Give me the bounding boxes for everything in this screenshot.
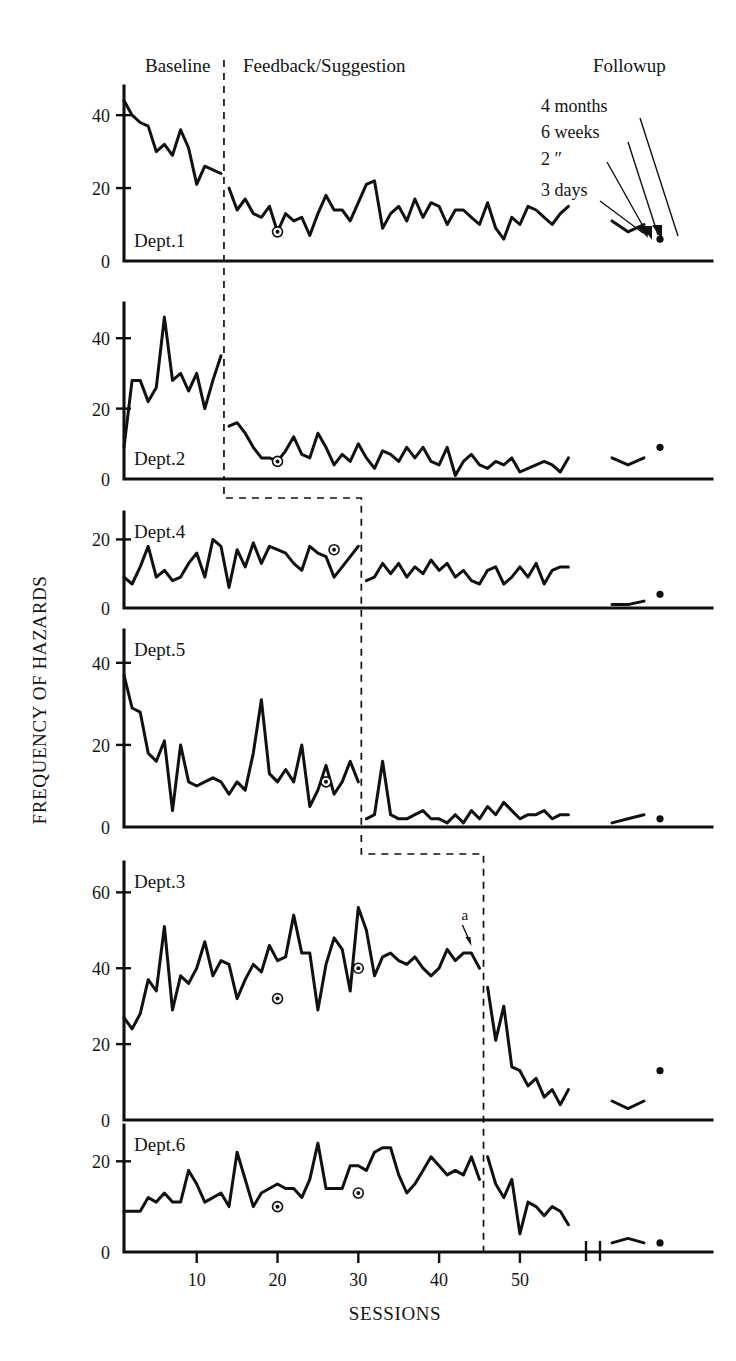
y-tick-label: 20	[92, 179, 110, 199]
panel-dept-6: 020Dept.6	[92, 1125, 712, 1263]
y-tick-label: 20	[92, 530, 110, 550]
leader-line-four-months	[640, 118, 678, 236]
highlight-point-dot	[276, 997, 280, 1001]
followup-final-point	[656, 815, 663, 822]
series-intervention	[488, 1157, 569, 1234]
highlight-point-dot	[332, 548, 336, 552]
series-baseline	[124, 539, 358, 587]
panel-dept-5: 02040Dept.5	[92, 630, 712, 838]
y-tick-label: 20	[92, 1035, 110, 1055]
dept-label: Dept.6	[134, 1134, 185, 1155]
point-annotation-label: a	[461, 907, 468, 923]
y-tick-label: 20	[92, 400, 110, 420]
leader-line-six-weeks	[628, 142, 658, 235]
series-baseline	[124, 317, 221, 447]
phase-change-lines	[224, 60, 484, 1252]
panel-dept-1: 02040Dept.1	[92, 86, 712, 272]
highlight-point-dot	[276, 459, 280, 463]
x-tick-label: 20	[269, 1270, 287, 1290]
dept-label: Dept.2	[134, 448, 185, 469]
followup-final-point	[656, 236, 663, 243]
series-followup	[612, 458, 644, 465]
series-followup	[612, 601, 644, 605]
phase-label-baseline: Baseline	[145, 55, 210, 76]
dept-label: Dept.5	[134, 639, 185, 660]
followup-annotation-six-weeks: 6 weeks	[541, 122, 599, 142]
series-followup	[612, 1238, 644, 1243]
followup-annotation-two-weeks: 2 ″	[541, 149, 562, 169]
y-tick-label: 0	[101, 818, 110, 838]
panel-axes	[124, 1125, 712, 1252]
panel-axes	[124, 630, 712, 827]
series-intervention	[488, 987, 569, 1105]
phase-line-step-30-to-45	[361, 835, 483, 1252]
panel-group: 02040Dept.102040Dept.2020Dept.402040Dept…	[92, 86, 712, 1263]
y-tick-label: 0	[101, 599, 110, 619]
panel-dept-3: 0204060Dept.3a	[92, 862, 712, 1131]
panel-axes	[124, 862, 712, 1120]
y-tick-label: 60	[92, 883, 110, 903]
panel-dept-4: 020Dept.4	[92, 512, 712, 619]
y-tick-label: 40	[92, 959, 110, 979]
followup-annotation-three-days: 3 days	[541, 180, 588, 200]
series-intervention	[229, 423, 568, 476]
multiple-baseline-chart: FREQUENCY OF HAZARDS SESSIONS Baseline F…	[0, 0, 736, 1361]
point-annotation-arrowhead	[465, 937, 471, 946]
x-axis-title: SESSIONS	[349, 1303, 441, 1324]
series-intervention	[366, 761, 568, 823]
series-followup	[612, 1101, 644, 1109]
panel-dept-2: 02040Dept.2	[92, 303, 712, 490]
dept-label: Dept.4	[134, 521, 186, 542]
highlight-point-dot	[356, 966, 360, 970]
y-tick-label: 40	[92, 106, 110, 126]
y-tick-label: 40	[92, 654, 110, 674]
panel-axes	[124, 86, 712, 261]
x-axis: 1020304050	[188, 1241, 600, 1290]
series-followup	[612, 815, 644, 823]
y-tick-label: 0	[101, 1243, 110, 1263]
figure-container: FREQUENCY OF HAZARDS SESSIONS Baseline F…	[0, 0, 736, 1361]
y-tick-label: 20	[92, 736, 110, 756]
followup-final-point	[656, 1239, 663, 1246]
dept-label: Dept.1	[134, 230, 185, 251]
followup-final-point	[656, 444, 663, 451]
highlight-point-dot	[276, 230, 280, 234]
highlight-point-dot	[276, 1205, 280, 1209]
series-baseline	[124, 908, 480, 1029]
phase-label-followup: Followup	[593, 55, 666, 76]
followup-final-point	[656, 1067, 663, 1074]
highlight-point-dot	[324, 780, 328, 784]
y-tick-label: 0	[101, 1111, 110, 1131]
x-tick-label: 40	[430, 1270, 448, 1290]
dept-label: Dept.3	[134, 871, 185, 892]
phase-label-intervention: Feedback/Suggestion	[243, 55, 406, 76]
series-baseline	[124, 675, 358, 811]
y-tick-label: 40	[92, 329, 110, 349]
panel-axes	[124, 512, 712, 608]
series-baseline	[124, 101, 221, 185]
x-tick-label: 50	[511, 1270, 529, 1290]
y-axis-title: FREQUENCY OF HAZARDS	[29, 576, 50, 825]
phase-line-step-13-to-30	[224, 487, 361, 827]
x-tick-label: 30	[349, 1270, 367, 1290]
followup-annotation-four-months: 4 months	[541, 96, 608, 116]
followup-final-point	[656, 591, 663, 598]
y-tick-label: 0	[101, 252, 110, 272]
y-tick-label: 0	[101, 470, 110, 490]
series-intervention	[366, 560, 568, 584]
y-tick-label: 20	[92, 1152, 110, 1172]
highlight-point-dot	[356, 1191, 360, 1195]
x-tick-label: 10	[188, 1270, 206, 1290]
